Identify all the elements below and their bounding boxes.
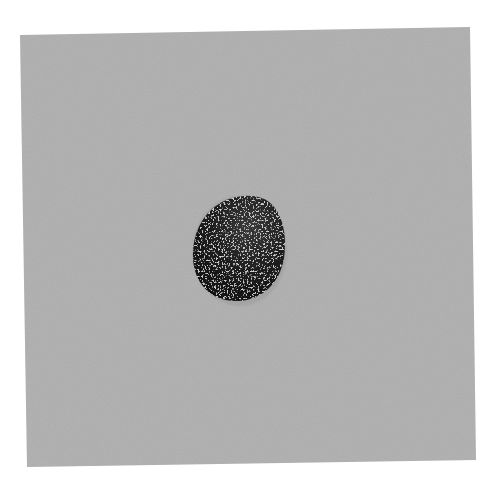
photo-canvas <box>0 0 490 485</box>
photo-scene <box>0 0 490 485</box>
